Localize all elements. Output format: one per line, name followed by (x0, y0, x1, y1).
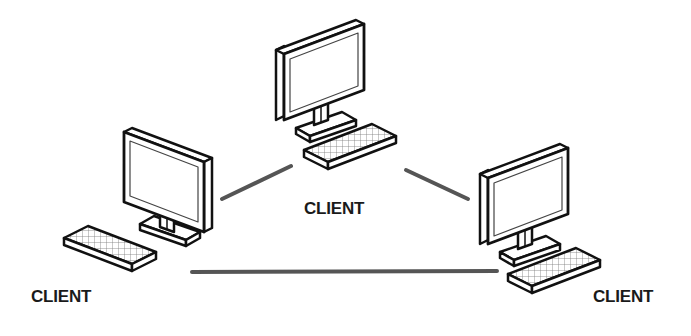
connection-left-top (222, 166, 291, 199)
connection-top-right (406, 170, 468, 199)
client-label-top: CLIENT (304, 200, 364, 218)
computer-icon-left (64, 128, 212, 271)
network-diagram (0, 0, 691, 336)
connection-left-right (192, 271, 497, 272)
client-label-right: CLIENT (593, 288, 653, 306)
computer-icon-top (276, 20, 396, 169)
client-label-left: CLIENT (31, 288, 91, 306)
